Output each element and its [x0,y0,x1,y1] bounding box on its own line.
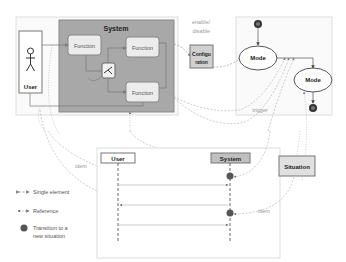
mode-label-2: Mode [305,77,321,83]
enable-label-2: disable [193,28,210,34]
function-label-2: Function [132,45,153,51]
idem-label-right: idem [258,208,270,214]
seq-system-label: System [220,156,241,162]
situation-label: Situation [284,164,310,170]
function-label-1: Function [74,43,95,49]
user-label: User [24,84,38,90]
mode-label-1: Mode [250,55,266,61]
legend-single-element: Single element [33,189,70,195]
legend-transition-1: Transition to a [33,225,69,231]
transition-dot-2 [227,210,234,217]
idem-label-left: idem [75,163,87,169]
legend-transition-dot [21,225,28,232]
legend-transition-2: new situation [33,233,65,239]
diagram-canvas: System Function Function Function User e… [0,0,346,262]
configuration-label-1: Configu [192,51,211,57]
enable-label-1: enable/ [192,19,211,25]
seq-user-label: User [111,156,125,162]
sequence-frame [97,148,280,258]
legend: Single element Reference Transition to a… [18,189,70,239]
transition-dot-1 [227,173,234,180]
configuration-label-2: ration [195,60,208,65]
legend-reference: Reference [33,208,58,214]
trigger-label: trigger [252,107,268,113]
system-title: System [104,25,129,33]
function-label-3: Function [132,90,153,96]
